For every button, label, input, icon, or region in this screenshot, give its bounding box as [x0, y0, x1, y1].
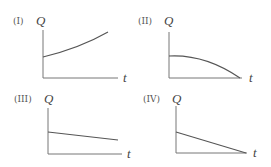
- panel-label: (III): [14, 94, 32, 104]
- y-axis-label: Q: [36, 13, 46, 28]
- q-curve: [48, 132, 118, 140]
- panel-2: (II) Q t: [138, 13, 253, 85]
- panel-label: (II): [138, 16, 152, 26]
- panel-label: (IV): [143, 94, 160, 104]
- panel-1: (I) Q t: [13, 13, 127, 85]
- q-curve: [176, 132, 246, 153]
- panel-4: (IV) Q t: [143, 91, 257, 160]
- y-axis-label: Q: [172, 91, 182, 106]
- x-axis-label: t: [123, 70, 127, 85]
- x-axis-label: t: [127, 146, 131, 161]
- q-curve: [43, 32, 108, 57]
- panel-label: (I): [13, 16, 24, 26]
- q-curve: [169, 56, 240, 78]
- panel-3: (III) Q t: [14, 91, 131, 161]
- x-axis-label: t: [249, 70, 253, 85]
- y-axis-label: Q: [44, 91, 54, 106]
- x-axis-label: t: [253, 145, 257, 160]
- graph-figure: (I) Q t (II) Q t (III) Q t (IV) Q t: [0, 0, 271, 167]
- y-axis-label: Q: [164, 13, 174, 28]
